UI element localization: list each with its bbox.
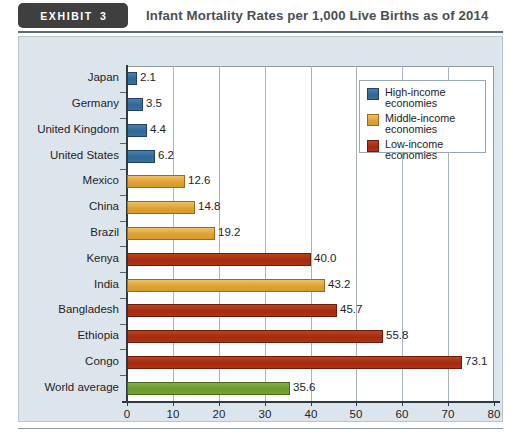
chart-panel: 01020304050607080 2.13.54.46.212.614.819… [18, 36, 503, 422]
x-axis-tick [219, 401, 220, 406]
y-axis-tick [120, 169, 126, 170]
x-axis-tick [402, 401, 403, 406]
gridline [265, 66, 266, 401]
bar-value-label: 14.8 [198, 200, 220, 212]
y-axis-tick [120, 375, 126, 376]
y-axis-tick [120, 221, 126, 222]
gridline [311, 66, 312, 401]
bar [127, 124, 147, 137]
bar-value-label: 45.7 [340, 303, 362, 315]
legend-item-high-income: High-income economies [367, 87, 485, 110]
y-axis-tick [120, 298, 126, 299]
y-axis-tick [120, 92, 126, 93]
bar [127, 279, 325, 292]
y-axis-tick [120, 195, 126, 196]
y-axis-tick [120, 143, 126, 144]
bar [127, 382, 290, 395]
exhibit-header: EXHIBIT 3 Infant Mortality Rates per 1,0… [0, 0, 521, 34]
legend-label-high-income: High-income economies [385, 87, 446, 110]
category-label: India [19, 278, 119, 290]
legend-label-low-income: Low-income economies [385, 139, 443, 162]
category-label: Kenya [19, 252, 119, 264]
bar-value-label: 55.8 [386, 329, 408, 341]
bar-value-label: 3.5 [146, 97, 162, 109]
category-label: China [19, 200, 119, 212]
legend-label-middle-income-line1: Middle-income [385, 112, 455, 124]
x-axis-tick-label: 40 [296, 408, 326, 420]
x-axis-tick [494, 401, 495, 406]
bar-value-label: 19.2 [218, 226, 240, 238]
bar-value-label: 35.6 [293, 381, 315, 393]
bar [127, 356, 462, 369]
y-axis-tick [120, 118, 126, 119]
legend-label-low-income-line1: Low-income [385, 138, 443, 150]
x-axis-tick-label: 30 [250, 408, 280, 420]
x-axis-tick-label: 10 [158, 408, 188, 420]
category-label: United Kingdom [19, 123, 119, 135]
x-axis-tick [127, 401, 128, 406]
category-label: Bangladesh [19, 303, 119, 315]
bar-value-label: 73.1 [465, 355, 487, 367]
legend: High-income economies Middle-income econ… [359, 80, 486, 153]
legend-label-high-income-line1: High-income [385, 86, 446, 98]
bar-value-label: 2.1 [140, 71, 156, 83]
x-axis-tick-label: 50 [341, 408, 371, 420]
legend-label-middle-income: Middle-income economies [385, 113, 455, 136]
bar-value-label: 4.4 [150, 123, 166, 135]
gridline [356, 66, 357, 401]
legend-swatch-middle-income-icon [367, 114, 379, 126]
bar [127, 304, 337, 317]
footer-divider [18, 428, 503, 429]
exhibit-badge: EXHIBIT 3 [18, 3, 128, 28]
x-axis-tick-label: 80 [479, 408, 509, 420]
exhibit-badge-label: EXHIBIT [40, 10, 93, 22]
x-axis-tick-label: 0 [112, 408, 142, 420]
bar-value-label: 40.0 [314, 252, 336, 264]
category-label: Japan [19, 71, 119, 83]
category-label: Ethiopia [19, 329, 119, 341]
legend-label-high-income-line2: economies [385, 97, 437, 109]
legend-swatch-low-income-icon [367, 140, 379, 152]
legend-swatch-high-income-icon [367, 88, 379, 100]
x-axis-tick-label: 20 [204, 408, 234, 420]
header-divider [18, 31, 503, 33]
x-axis-tick [448, 401, 449, 406]
legend-item-low-income: Low-income economies [367, 139, 485, 162]
bar-value-label: 43.2 [328, 278, 350, 290]
legend-label-low-income-line2: economies [385, 149, 437, 161]
x-axis-tick-label: 70 [433, 408, 463, 420]
x-axis-tick [173, 401, 174, 406]
legend-label-middle-income-line2: economies [385, 123, 437, 135]
bar [127, 72, 137, 85]
x-axis-tick [265, 401, 266, 406]
bar [127, 98, 143, 111]
category-label: World average [19, 381, 119, 393]
bar-value-label: 6.2 [158, 149, 174, 161]
category-label: Mexico [19, 174, 119, 186]
x-axis-tick [356, 401, 357, 406]
bar [127, 201, 195, 214]
bar [127, 253, 311, 266]
bar-value-label: 12.6 [188, 174, 210, 186]
category-label: Germany [19, 97, 119, 109]
x-axis-tick-label: 60 [387, 408, 417, 420]
exhibit-figure: EXHIBIT 3 Infant Mortality Rates per 1,0… [0, 0, 521, 438]
bar [127, 150, 155, 163]
legend-item-middle-income: Middle-income economies [367, 113, 485, 136]
bar [127, 330, 383, 343]
bar [127, 227, 215, 240]
category-label: United States [19, 149, 119, 161]
bar [127, 175, 185, 188]
y-axis-tick [120, 272, 126, 273]
exhibit-badge-number: 3 [100, 10, 106, 22]
exhibit-title: Infant Mortality Rates per 1,000 Live Bi… [146, 8, 488, 23]
category-label: Brazil [19, 226, 119, 238]
category-label: Congo [19, 355, 119, 367]
y-axis-tick [120, 349, 126, 350]
y-axis-tick [120, 246, 126, 247]
y-axis-tick [120, 324, 126, 325]
x-axis-tick [311, 401, 312, 406]
